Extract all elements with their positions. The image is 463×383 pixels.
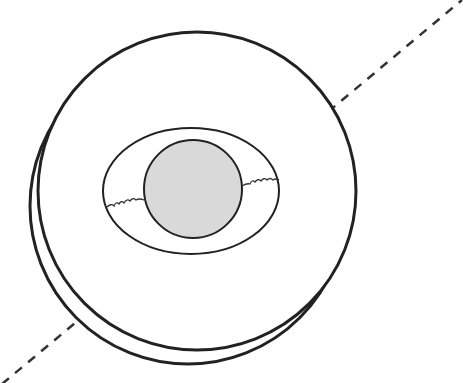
diagram-svg <box>0 0 463 383</box>
diagram-canvas <box>0 0 463 383</box>
inner-shaded-circle <box>144 140 242 238</box>
